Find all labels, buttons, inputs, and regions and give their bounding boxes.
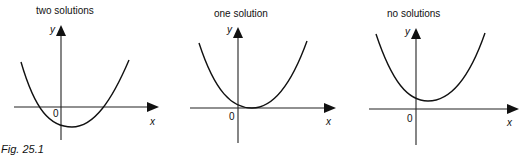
x-axis-arrow-icon bbox=[147, 102, 159, 112]
panel-title: two solutions bbox=[36, 5, 94, 16]
y-axis-label: y bbox=[49, 24, 56, 35]
panel-title: no solutions bbox=[387, 8, 440, 19]
x-axis-label: x bbox=[149, 116, 156, 127]
origin-label: 0 bbox=[229, 111, 235, 122]
panel-title: one solution bbox=[214, 8, 268, 19]
y-axis-arrow-icon bbox=[56, 25, 66, 36]
origin-label: 0 bbox=[407, 113, 413, 124]
y-axis-arrow-icon bbox=[411, 28, 421, 39]
parabola-curve bbox=[376, 33, 485, 101]
x-axis-label: x bbox=[325, 116, 332, 127]
parabola-curve bbox=[199, 41, 307, 108]
parabola-curve bbox=[21, 60, 129, 127]
y-axis-label: y bbox=[226, 24, 233, 35]
y-axis-arrow-icon bbox=[233, 27, 243, 38]
figure-caption: Fig. 25.1 bbox=[1, 143, 44, 155]
x-axis-arrow-icon bbox=[507, 104, 519, 114]
x-axis-label: x bbox=[506, 117, 513, 128]
quadratic-solutions-figure: two solutions y x 0 one solution y x 0 n… bbox=[0, 0, 520, 159]
panel-two-solutions: two solutions y x 0 bbox=[14, 5, 159, 140]
x-axis-arrow-icon bbox=[324, 103, 336, 113]
origin-label: 0 bbox=[53, 108, 59, 119]
panel-one-solution: one solution y x 0 bbox=[190, 8, 336, 143]
y-axis-label: y bbox=[404, 26, 411, 37]
panel-no-solutions: no solutions y x 0 bbox=[369, 8, 519, 145]
